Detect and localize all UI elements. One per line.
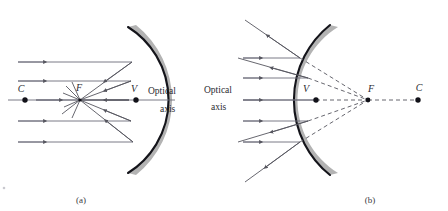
panel-b-convex-mirror: Optical axis V F C (b): [204, 20, 423, 205]
panel-a-point-F: [78, 98, 81, 101]
panel-a-label-C: C: [18, 83, 25, 94]
panel-b-label-V: V: [303, 83, 311, 94]
panel-b-label-axis: axis: [211, 102, 227, 112]
figure-container: C F V Optical axis (a): [0, 0, 448, 211]
panel-b-point-V: [313, 97, 318, 102]
panel-b-point-F: [366, 98, 371, 103]
panel-b-caption: (b): [365, 195, 376, 205]
panel-a-concave-mirror: C F V Optical axis (a): [8, 25, 176, 205]
ray-diagram-svg: C F V Optical axis (a): [0, 0, 448, 211]
panel-a-reflected-rays: [62, 62, 133, 142]
panel-a-label-V: V: [131, 83, 139, 94]
panel-b-label-optical: Optical: [204, 85, 232, 95]
panel-b-reflected-rays: [238, 20, 308, 182]
panel-b-label-F: F: [367, 83, 375, 94]
panel-b-label-C: C: [416, 82, 423, 93]
panel-a-label-F: F: [75, 82, 83, 93]
panel-a-point-C: [22, 97, 27, 102]
panel-a-point-V: [133, 97, 138, 102]
panel-a-caption: (a): [76, 195, 86, 205]
panel-a-label-optical: Optical: [148, 86, 176, 96]
scan-artifact-speck: [3, 187, 6, 190]
panel-a-label-axis: axis: [160, 104, 176, 114]
panel-b-point-C: [415, 97, 420, 102]
